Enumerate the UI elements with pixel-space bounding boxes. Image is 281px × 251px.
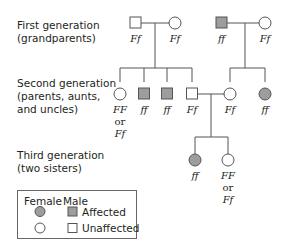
legend-affected-male-square (68, 207, 77, 216)
legend-female-header: Female (24, 195, 62, 207)
affected-male-square (216, 17, 227, 28)
legend-affected-label: Affected (82, 206, 126, 218)
svg-text:and uncles): and uncles) (17, 103, 78, 115)
svg-text:(grandparents): (grandparents) (17, 32, 96, 44)
legend: Female Male Affected Unaffected (18, 191, 140, 239)
pedigree-diagram: First generation (grandparents) Second g… (0, 0, 281, 251)
affected-female-circle (259, 88, 271, 100)
affected-male-square (162, 88, 173, 99)
unaffected-female-circle (224, 88, 236, 100)
svg-text:ff: ff (260, 104, 270, 115)
legend-affected-female-circle (35, 207, 45, 217)
g3-sister-2: FF or Ff (220, 154, 236, 205)
svg-text:or: or (115, 116, 126, 127)
generation-1-label: First generation (grandparents) (17, 19, 100, 44)
g1-right-male: ff (216, 17, 227, 44)
unaffected-male-square (187, 88, 198, 99)
svg-text:Ff: Ff (169, 33, 183, 44)
g1-left-female: Ff (169, 17, 183, 44)
g1-left-male: Ff (129, 17, 143, 44)
unaffected-female-circle (114, 88, 126, 100)
legend-unaffected-label: Unaffected (82, 222, 139, 234)
svg-text:Ff: Ff (129, 33, 143, 44)
svg-text:Second generation: Second generation (17, 77, 116, 89)
g2-male-3: Ff (186, 88, 200, 115)
svg-text:(two sisters): (two sisters) (17, 162, 82, 174)
unaffected-female-circle (169, 17, 181, 29)
svg-text:or: or (223, 182, 234, 193)
svg-text:Ff: Ff (186, 104, 200, 115)
svg-text:Ff: Ff (224, 104, 238, 115)
g2-male-1: ff (139, 88, 150, 115)
g2-male-2: ff (162, 88, 173, 115)
generation-3-label: Third generation (two sisters) (16, 149, 104, 174)
unaffected-male-square (130, 17, 141, 28)
legend-unaffected-male-square (68, 224, 77, 233)
g2-female-2: Ff (224, 88, 238, 115)
svg-text:First generation: First generation (17, 19, 100, 31)
generation-2-label: Second generation (parents, aunts, and u… (17, 77, 116, 115)
svg-text:ff: ff (217, 33, 227, 44)
unaffected-female-circle (222, 154, 234, 166)
svg-text:FF: FF (112, 104, 128, 115)
svg-text:Ff: Ff (114, 128, 128, 139)
svg-text:Third generation: Third generation (16, 149, 104, 161)
g3-sister-1: ff (189, 154, 201, 181)
affected-male-square (139, 88, 150, 99)
svg-text:FF: FF (220, 170, 236, 181)
svg-text:Ff: Ff (222, 194, 236, 205)
g2-female-3: ff (259, 88, 271, 115)
svg-text:ff: ff (162, 104, 172, 115)
unaffected-female-circle (259, 17, 271, 29)
svg-text:ff: ff (139, 104, 149, 115)
svg-text:(parents, aunts,: (parents, aunts, (17, 90, 100, 102)
svg-text:ff: ff (190, 170, 200, 181)
svg-text:Ff: Ff (259, 33, 273, 44)
legend-unaffected-female-circle (35, 223, 45, 233)
affected-female-circle (189, 154, 201, 166)
g1-right-female: Ff (259, 17, 273, 44)
g2-female-1: FF or Ff (112, 88, 128, 139)
